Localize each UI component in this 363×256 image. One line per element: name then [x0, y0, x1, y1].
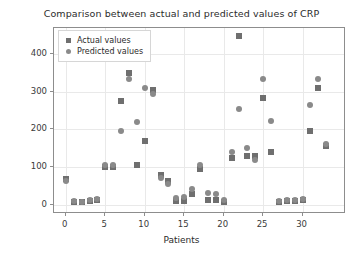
- y-tick-label: 0: [13, 199, 47, 209]
- data-point-predicted: [189, 186, 195, 192]
- data-point-actual: [244, 153, 250, 159]
- chart-title: Comparison between actual and predicted …: [0, 8, 363, 19]
- data-point-predicted: [229, 149, 235, 155]
- data-point-predicted: [150, 91, 156, 97]
- y-tick-label: 300: [13, 86, 47, 96]
- x-axis-label: Patients: [0, 235, 363, 245]
- data-point-predicted: [323, 141, 329, 147]
- data-point-predicted: [315, 76, 321, 82]
- gridline-vertical: [184, 28, 185, 212]
- data-point-predicted: [205, 190, 211, 196]
- legend-label-predicted: Predicted values: [77, 47, 143, 56]
- x-tick-label: 0: [62, 219, 67, 229]
- x-tick-mark: [223, 213, 224, 216]
- square-marker-icon: [66, 38, 71, 43]
- data-point-predicted: [158, 175, 164, 181]
- data-point-actual: [229, 155, 235, 161]
- data-point-predicted: [221, 197, 227, 203]
- y-tick-label: 400: [13, 48, 47, 58]
- data-point-predicted: [268, 118, 274, 124]
- data-point-predicted: [284, 197, 290, 203]
- data-point-predicted: [94, 196, 100, 202]
- x-tick-label: 30: [296, 219, 307, 229]
- x-tick-label: 20: [217, 219, 228, 229]
- y-tick-label: 200: [13, 123, 47, 133]
- data-point-actual: [205, 197, 211, 203]
- y-tick-mark: [50, 91, 53, 92]
- data-point-predicted: [197, 162, 203, 168]
- data-point-actual: [307, 128, 313, 134]
- data-point-predicted: [252, 157, 258, 163]
- x-tick-mark: [183, 213, 184, 216]
- data-point-predicted: [276, 198, 282, 204]
- data-point-predicted: [110, 162, 116, 168]
- data-point-actual: [236, 33, 242, 39]
- gridline-vertical: [224, 28, 225, 212]
- data-point-predicted: [134, 119, 140, 125]
- data-point-predicted: [87, 197, 93, 203]
- x-tick-mark: [262, 213, 263, 216]
- y-tick-mark: [50, 204, 53, 205]
- data-point-actual: [134, 162, 140, 168]
- data-point-predicted: [307, 102, 313, 108]
- x-tick-mark: [65, 213, 66, 216]
- x-tick-label: 25: [257, 219, 268, 229]
- data-point-predicted: [244, 145, 250, 151]
- data-point-predicted: [118, 128, 124, 134]
- data-point-actual: [213, 197, 219, 203]
- data-point-predicted: [102, 162, 108, 168]
- x-tick-label: 10: [138, 219, 149, 229]
- data-point-actual: [260, 95, 266, 101]
- data-point-predicted: [213, 191, 219, 197]
- data-point-predicted: [292, 197, 298, 203]
- data-point-predicted: [181, 194, 187, 200]
- y-tick-mark: [50, 128, 53, 129]
- chart-legend: Actual values Predicted values: [58, 30, 151, 62]
- data-point-predicted: [71, 198, 77, 204]
- gridline-horizontal: [54, 92, 344, 93]
- data-point-predicted: [173, 195, 179, 201]
- legend-item-actual: Actual values: [64, 35, 143, 46]
- gridline-vertical: [263, 28, 264, 212]
- x-tick-mark: [144, 213, 145, 216]
- gridline-vertical: [303, 28, 304, 212]
- legend-item-predicted: Predicted values: [64, 46, 143, 57]
- data-point-predicted: [165, 181, 171, 187]
- data-point-predicted: [236, 106, 242, 112]
- x-tick-label: 5: [102, 219, 107, 229]
- y-tick-mark: [50, 53, 53, 54]
- data-point-actual: [189, 191, 195, 197]
- x-tick-label: 15: [178, 219, 189, 229]
- data-point-predicted: [126, 76, 132, 82]
- data-point-actual: [118, 98, 124, 104]
- data-point-actual: [142, 138, 148, 144]
- y-tick-label: 100: [13, 161, 47, 171]
- data-point-predicted: [300, 196, 306, 202]
- y-tick-mark: [50, 166, 53, 167]
- chart-figure: Comparison between actual and predicted …: [0, 0, 363, 256]
- gridline-horizontal: [54, 205, 344, 206]
- x-tick-mark: [302, 213, 303, 216]
- legend-label-actual: Actual values: [77, 36, 131, 45]
- data-point-predicted: [142, 85, 148, 91]
- data-point-predicted: [63, 178, 69, 184]
- x-tick-mark: [104, 213, 105, 216]
- data-point-predicted: [79, 199, 85, 205]
- gridline-horizontal: [54, 129, 344, 130]
- data-point-actual: [315, 85, 321, 91]
- data-point-predicted: [260, 76, 266, 82]
- data-point-actual: [268, 149, 274, 155]
- circle-marker-icon: [66, 49, 71, 54]
